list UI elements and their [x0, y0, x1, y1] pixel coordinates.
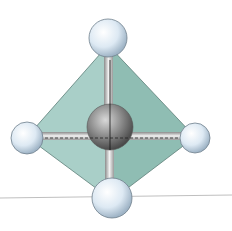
outer-atom-right	[180, 123, 210, 153]
outer-atom-top	[89, 19, 127, 57]
outer-atom-left	[11, 122, 43, 154]
bond-right	[125, 132, 185, 140]
molecule-figure	[0, 0, 232, 231]
outer-atom-bottom	[92, 178, 132, 218]
